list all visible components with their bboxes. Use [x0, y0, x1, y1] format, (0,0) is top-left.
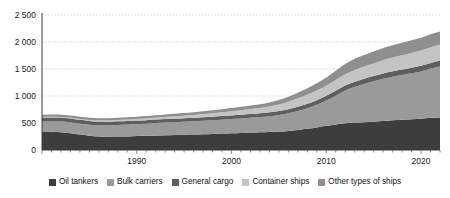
- y-axis-tick-label: 2 000: [15, 37, 37, 47]
- legend-item[interactable]: General cargo: [172, 177, 234, 187]
- series-areas: [42, 31, 440, 150]
- stacked-area-chart: 05001 0001 5002 0002 500 199020002010202…: [0, 0, 450, 198]
- x-axis-tick-label: 2010: [317, 156, 336, 166]
- legend-item-label: Oil tankers: [59, 177, 98, 187]
- y-axis-tick-label: 500: [22, 118, 36, 128]
- legend-item[interactable]: Oil tankers: [49, 177, 98, 187]
- chart-legend: Oil tankersBulk carriersGeneral cargoCon…: [0, 172, 450, 192]
- y-axis-tick-label: 2 500: [15, 10, 37, 20]
- y-axis-tick-label: 0: [31, 145, 36, 155]
- legend-item[interactable]: Other types of ships: [318, 177, 401, 187]
- legend-item-label: Bulk carriers: [117, 177, 163, 187]
- x-axis-tick-label: 2020: [412, 156, 431, 166]
- chart-svg: 05001 0001 5002 0002 500 199020002010202…: [0, 0, 450, 168]
- x-axis-tick-label: 2000: [222, 156, 241, 166]
- y-axis-tick-labels: 05001 0001 5002 0002 500: [15, 10, 37, 155]
- legend-swatch-icon: [318, 179, 325, 186]
- legend-item[interactable]: Container ships: [242, 177, 309, 187]
- legend-item[interactable]: Bulk carriers: [107, 177, 163, 187]
- legend-item-label: Container ships: [252, 177, 309, 187]
- y-axis-tick-label: 1 500: [15, 64, 37, 74]
- x-axis-tick-labels: 1990200020102020: [127, 156, 430, 166]
- legend-swatch-icon: [172, 179, 179, 186]
- legend-swatch-icon: [49, 179, 56, 186]
- legend-swatch-icon: [242, 179, 249, 186]
- y-axis-tick-label: 1 000: [15, 91, 37, 101]
- legend-item-label: General cargo: [182, 177, 234, 187]
- legend-item-label: Other types of ships: [328, 177, 401, 187]
- x-axis-tick-label: 1990: [127, 156, 146, 166]
- plot-area: 05001 0001 5002 0002 500 199020002010202…: [0, 0, 450, 168]
- legend-swatch-icon: [107, 179, 114, 186]
